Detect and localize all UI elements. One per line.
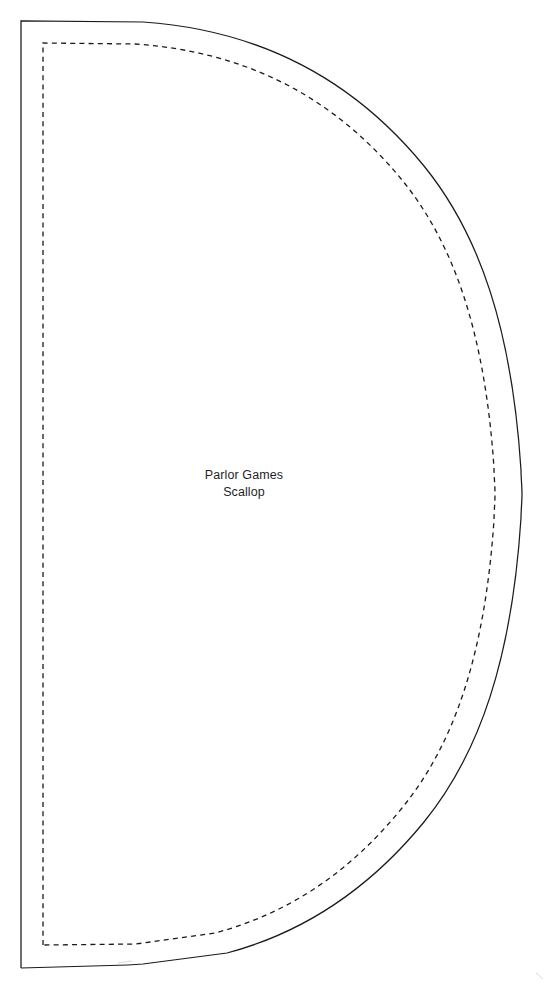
pattern-label-line1: Parlor Games [205, 468, 283, 482]
pattern-outline-drawing: Parlor Games Scallop [0, 0, 548, 986]
cutting-line-bottom-edge [21, 965, 128, 968]
faint-mark-corner-icon [536, 973, 543, 979]
cutting-line-lower [128, 494, 522, 965]
pattern-label-line2: Scallop [223, 485, 265, 499]
pattern-sheet: Parlor Games Scallop [0, 0, 548, 986]
cutting-line-upper [21, 21, 522, 968]
faint-mark-bottom-icon [118, 961, 132, 963]
seam-allowance-line [43, 43, 495, 945]
